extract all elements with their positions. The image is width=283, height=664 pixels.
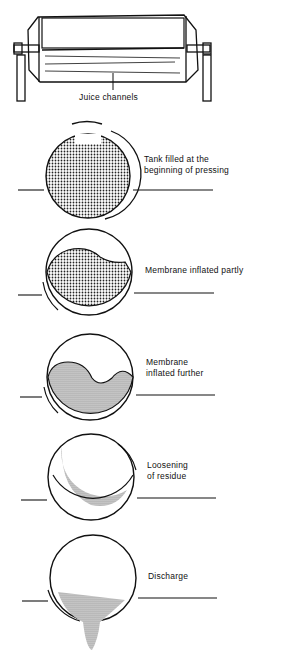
pneumatic-press-diagram xyxy=(0,0,283,664)
press-drum xyxy=(14,15,211,101)
stage-2-label-line1: Membrane inflated partly xyxy=(145,265,243,276)
stage-1-label: Tank filled at the beginning of pressing xyxy=(144,154,229,176)
stage-3-label-line2: inflated further xyxy=(146,368,204,379)
stage-5-label: Discharge xyxy=(148,571,188,582)
stage-5-drum xyxy=(22,535,217,650)
juice-channels-label: Juice channels xyxy=(79,92,138,103)
stage-1-label-line2: beginning of pressing xyxy=(144,165,229,176)
stage-4-label-line1: Loosening xyxy=(147,460,188,471)
stage-4-label: Loosening of residue xyxy=(147,460,188,482)
stage-3-label: Membrane inflated further xyxy=(146,357,204,379)
stage-4-label-line2: of residue xyxy=(147,471,188,482)
stage-2-label: Membrane inflated partly xyxy=(145,265,243,276)
stage-5-label-line1: Discharge xyxy=(148,571,188,582)
stage-3-label-line1: Membrane xyxy=(146,357,204,368)
stage-1-label-line1: Tank filled at the xyxy=(144,154,229,165)
